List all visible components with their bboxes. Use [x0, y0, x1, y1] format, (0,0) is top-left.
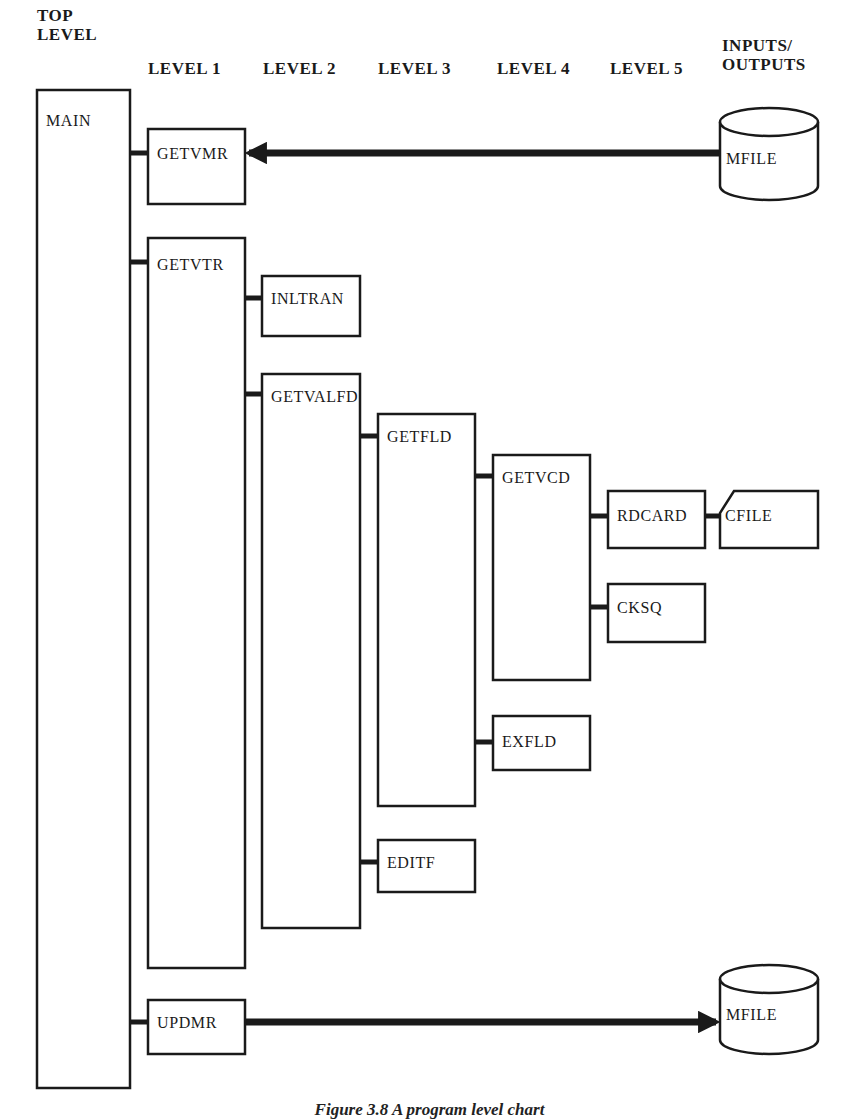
module-label: CKSQ	[617, 599, 662, 616]
module-label: GETVALFD	[271, 388, 358, 405]
modules: MAINGETVMRGETVTRINLTRANGETVALFDGETFLDGET…	[37, 90, 705, 1088]
files: MFILECFILEMFILE	[720, 108, 818, 1054]
module-label: GETVMR	[157, 145, 228, 162]
module-label: INLTRAN	[271, 290, 344, 307]
program-level-chart: MAINGETVMRGETVTRINLTRANGETVALFDGETFLDGET…	[0, 0, 859, 1119]
module-exfld[interactable]: EXFLD	[493, 716, 590, 770]
module-box	[493, 455, 590, 680]
file-label: CFILE	[725, 507, 772, 524]
module-getvtr[interactable]: GETVTR	[148, 238, 245, 968]
module-label: EDITF	[387, 854, 435, 871]
disk-top	[720, 965, 818, 993]
file-label: MFILE	[726, 1006, 777, 1023]
module-editf[interactable]: EDITF	[378, 840, 475, 892]
module-rdcard[interactable]: RDCARD	[608, 491, 705, 548]
module-box	[148, 238, 245, 968]
disk-top	[720, 108, 818, 136]
module-label: GETFLD	[387, 428, 452, 445]
module-getvalfd[interactable]: GETVALFD	[262, 374, 360, 928]
module-label: GETVCD	[502, 469, 570, 486]
module-label: EXFLD	[502, 733, 557, 750]
file-mfile-input[interactable]: MFILE	[720, 108, 818, 200]
module-label: UPDMR	[157, 1014, 217, 1031]
module-label: RDCARD	[617, 507, 687, 524]
module-label: MAIN	[46, 112, 91, 129]
module-box	[262, 374, 360, 928]
module-getvmr[interactable]: GETVMR	[148, 129, 245, 204]
file-mfile-output[interactable]: MFILE	[720, 965, 818, 1054]
module-box	[378, 414, 475, 806]
module-getvcd[interactable]: GETVCD	[493, 455, 590, 680]
file-cfile[interactable]: CFILE	[720, 491, 818, 548]
module-box	[148, 129, 245, 204]
module-inltran[interactable]: INLTRAN	[262, 276, 360, 336]
file-label: MFILE	[726, 150, 777, 167]
module-getfld[interactable]: GETFLD	[378, 414, 475, 806]
module-label: GETVTR	[157, 256, 224, 273]
module-cksq[interactable]: CKSQ	[608, 584, 705, 642]
module-box	[37, 90, 130, 1088]
figure-caption: Figure 3.8 A program level chart	[0, 1100, 859, 1119]
module-main[interactable]: MAIN	[37, 90, 130, 1088]
module-updmr[interactable]: UPDMR	[148, 1000, 245, 1054]
